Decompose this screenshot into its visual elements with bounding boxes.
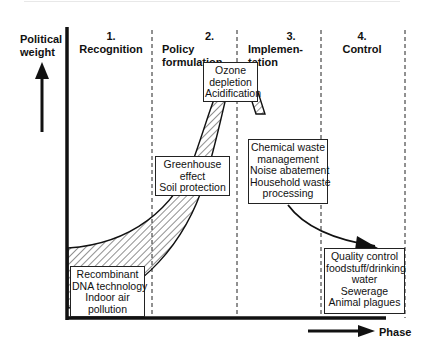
phase-heading-implementation: 3. Implemen- tation <box>248 30 320 69</box>
phase-heading-recognition: 1. Recognition <box>72 30 150 56</box>
ozone-acidification-box: Ozone depletion Acidification <box>203 62 258 102</box>
phase-arrowhead <box>358 325 375 337</box>
control-issues-box: Quality control foodstuff/drinking water… <box>324 248 405 314</box>
recognition-issues-box: Recombinant DNA technology Indoor air po… <box>70 266 145 317</box>
political-weight-arrowhead <box>35 62 49 79</box>
x-axis-label: Phase <box>379 326 411 338</box>
greenhouse-soil-box: Greenhouse effect Soil protection <box>155 156 230 196</box>
y-axis-label: Political weight <box>20 33 62 59</box>
phase-heading-control: 4. Control <box>322 30 402 56</box>
implementation-issues-box: Chemical waste management Noise abatemen… <box>248 139 328 204</box>
